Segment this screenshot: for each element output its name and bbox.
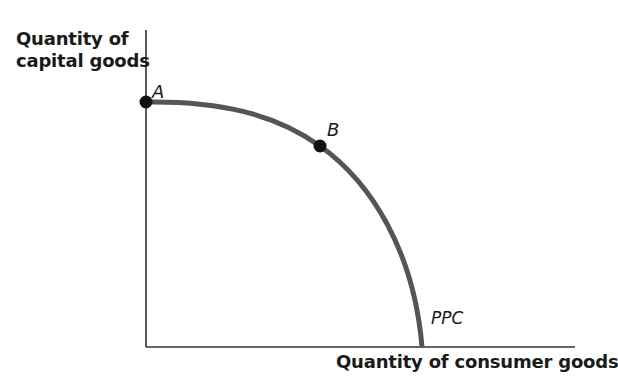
y-axis-label: Quantity of capital goods xyxy=(16,28,150,72)
point-a-marker xyxy=(140,96,153,109)
y-axis-label-line2: capital goods xyxy=(16,50,150,72)
ppc-curve-label: PPC xyxy=(431,308,463,328)
point-b-marker xyxy=(314,140,327,153)
x-axis-label: Quantity of consumer goods xyxy=(336,351,618,373)
y-axis-label-line1: Quantity of xyxy=(16,28,150,50)
ppc-curve xyxy=(146,102,422,347)
point-b-label: B xyxy=(327,120,339,140)
point-a-label: A xyxy=(152,82,164,102)
